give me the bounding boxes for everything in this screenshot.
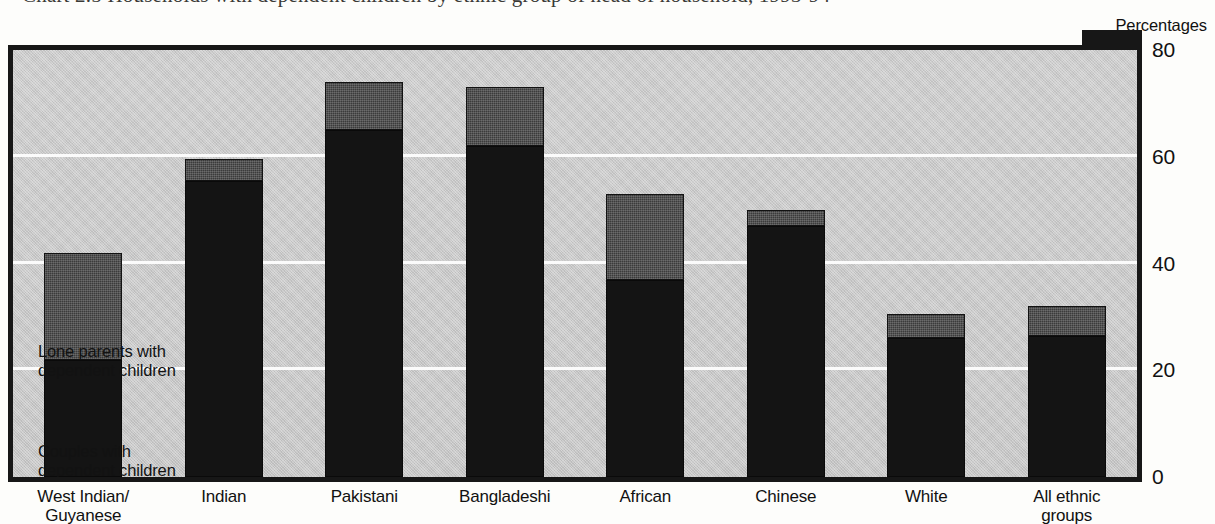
y-tick-label-0: 0 xyxy=(1152,465,1163,489)
x-label-white: White xyxy=(856,487,997,506)
gridline-20 xyxy=(13,367,1137,370)
x-label-west-indian-guyanese: West Indian/ Guyanese xyxy=(13,487,154,524)
bar-segment-lone-parents xyxy=(1028,306,1106,335)
x-label-pakistani: Pakistani xyxy=(294,487,435,506)
x-label-african: African xyxy=(575,487,716,506)
caption-remnant-text: Chart 2.5 Households with dependent chil… xyxy=(22,0,830,8)
bar-segment-couples xyxy=(606,280,684,477)
y-tick-label-40: 40 xyxy=(1152,252,1175,276)
bar-segment-couples xyxy=(747,226,825,477)
bar-segment-couples xyxy=(325,130,403,477)
bar-bangladeshi xyxy=(466,87,544,477)
bar-segment-couples xyxy=(1028,336,1106,477)
bar-segment-lone-parents xyxy=(606,194,684,279)
legend-label-couples: Couples with dependent children xyxy=(38,442,176,477)
bar-pakistani xyxy=(325,82,403,477)
bar-chinese xyxy=(747,210,825,477)
frame-corner-nub xyxy=(1082,30,1142,50)
bar-segment-lone-parents xyxy=(887,314,965,338)
y-tick-label-20: 20 xyxy=(1152,358,1175,382)
bar-segment-lone-parents xyxy=(185,159,263,180)
bar-african xyxy=(606,194,684,477)
bar-segment-lone-parents xyxy=(747,210,825,226)
x-label-all-ethnic-groups: All ethnic groups xyxy=(997,487,1138,524)
x-label-indian: Indian xyxy=(154,487,295,506)
gridline-60 xyxy=(13,154,1137,157)
x-label-chinese: Chinese xyxy=(716,487,857,506)
bar-indian xyxy=(185,159,263,477)
bar-white xyxy=(887,314,965,477)
chart-plot-frame: Lone parents with dependent children Cou… xyxy=(8,45,1142,482)
bar-segment-lone-parents xyxy=(325,82,403,130)
bar-all-ethnic-groups xyxy=(1028,306,1106,477)
legend-label-lone-parents: Lone parents with dependent children xyxy=(38,342,176,380)
bar-segment-couples xyxy=(466,146,544,477)
gridline-40 xyxy=(13,261,1137,264)
bar-segment-couples xyxy=(185,181,263,477)
bar-segment-lone-parents xyxy=(466,87,544,146)
y-tick-label-60: 60 xyxy=(1152,145,1175,169)
x-label-bangladeshi: Bangladeshi xyxy=(435,487,576,506)
chart-plot-area: Lone parents with dependent children Cou… xyxy=(13,50,1137,477)
caption-remnant-strip: Chart 2.5 Households with dependent chil… xyxy=(0,0,1215,14)
y-tick-label-80: 80 xyxy=(1152,38,1175,62)
bar-segment-couples xyxy=(887,338,965,477)
